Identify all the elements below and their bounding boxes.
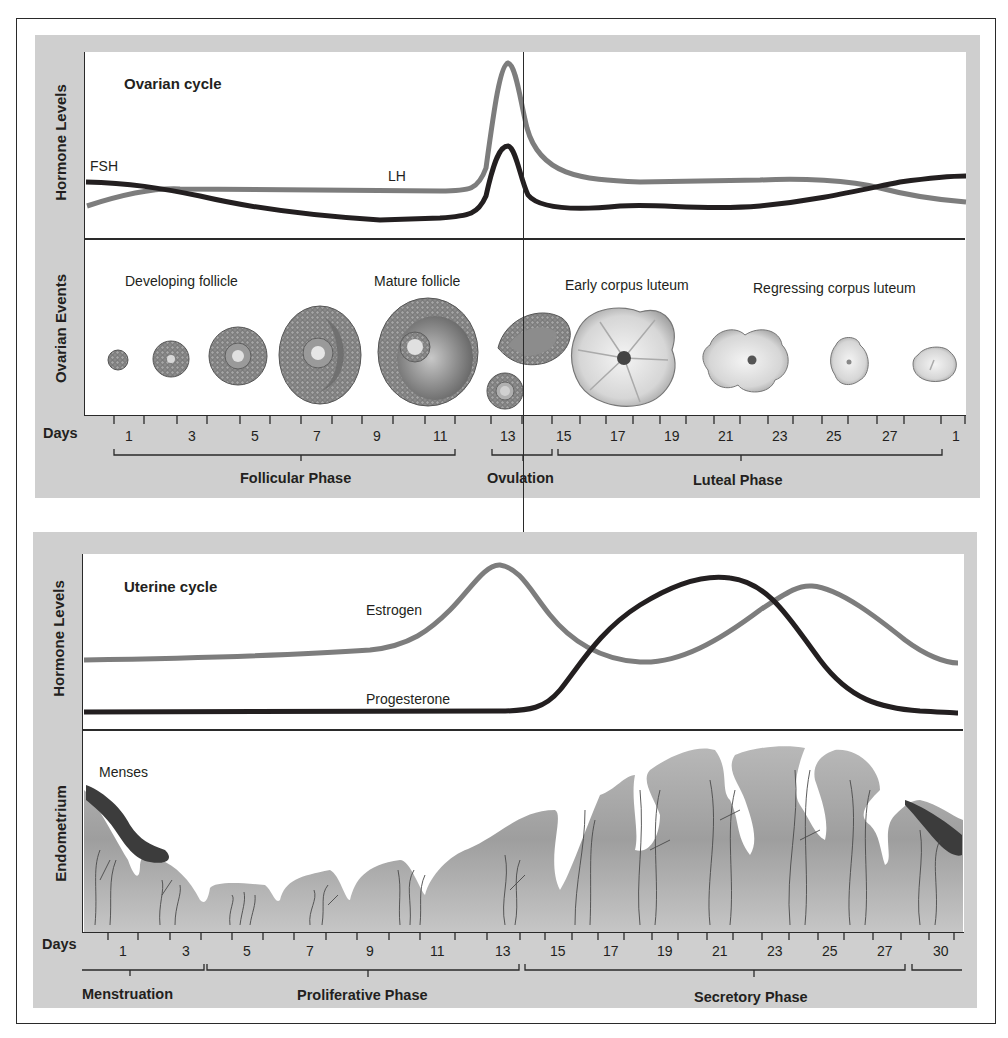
bottom-tick-9: 9 [366, 943, 374, 959]
bottom-days-axis [0, 0, 1008, 1038]
bottom-tick-30: 30 [933, 943, 949, 959]
bottom-tick-25: 25 [822, 943, 838, 959]
bottom-tick-27: 27 [877, 943, 893, 959]
bottom-tick-5: 5 [243, 943, 251, 959]
bottom-tick-11: 11 [430, 943, 445, 959]
bottom-tick-19: 19 [657, 943, 673, 959]
bottom-tick-17: 17 [603, 943, 619, 959]
menstruation-label: Menstruation [82, 986, 173, 1002]
bottom-tick-21: 21 [712, 943, 728, 959]
bottom-tick-1: 1 [119, 943, 127, 959]
bottom-tick-15: 15 [550, 943, 566, 959]
bottom-tick-7: 7 [306, 943, 314, 959]
bottom-tick-13: 13 [495, 943, 511, 959]
bottom-tick-3: 3 [182, 943, 190, 959]
proliferative-phase-label: Proliferative Phase [297, 987, 428, 1003]
secretory-phase-label: Secretory Phase [694, 989, 808, 1005]
bottom-tick-23: 23 [767, 943, 783, 959]
